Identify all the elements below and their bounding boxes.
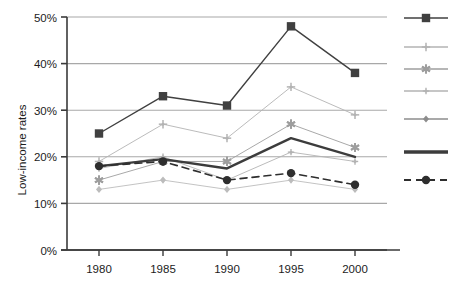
legend-marker-1 — [422, 14, 430, 22]
series-7-point-1985 — [159, 157, 167, 165]
line-chart: 0%10%20%30%40%50% 19801985199019952000 L… — [0, 0, 456, 295]
y-tick-label-40: 40% — [34, 58, 57, 70]
series-1-point-2000 — [351, 69, 359, 77]
series-1-point-1985 — [159, 92, 167, 100]
chart-container: 0%10%20%30%40%50% 19801985199019952000 L… — [0, 0, 456, 295]
y-tick-label-10: 10% — [34, 198, 57, 210]
legend-marker-7 — [422, 176, 430, 184]
y-tick-label-0: 0% — [40, 245, 57, 257]
series-7-point-1980 — [95, 162, 103, 170]
x-tick-label-1980: 1980 — [86, 263, 112, 275]
x-tick-label-1990: 1990 — [214, 263, 240, 275]
y-tick-label-30: 30% — [34, 105, 57, 117]
series-1-point-1980 — [95, 129, 103, 137]
x-tick-label-2000: 2000 — [342, 263, 368, 275]
series-1-point-1990 — [223, 101, 231, 109]
y-tick-label-20: 20% — [34, 151, 57, 163]
series-7-point-1995 — [287, 169, 295, 177]
y-axis-title: Low-income rates — [16, 104, 28, 195]
series-7-point-2000 — [351, 181, 359, 189]
series-1-point-1995 — [287, 22, 295, 30]
x-tick-label-1985: 1985 — [150, 263, 176, 275]
series-7-point-1990 — [223, 176, 231, 184]
y-tick-label-50: 50% — [34, 12, 57, 24]
x-tick-label-1995: 1995 — [278, 263, 304, 275]
